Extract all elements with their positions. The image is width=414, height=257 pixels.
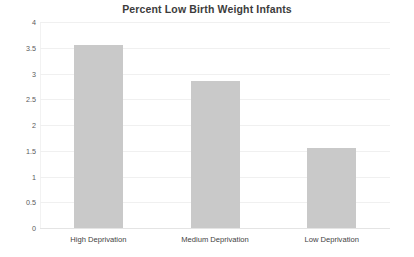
y-axis-tick-label: 2 — [0, 121, 36, 130]
y-axis-tick-label: 2.5 — [0, 95, 36, 104]
bar — [191, 81, 240, 228]
plot-area — [40, 22, 390, 228]
x-axis-category-label: Low Deprivation — [304, 235, 358, 244]
y-axis-tick-label: 0 — [0, 224, 36, 233]
bar — [74, 45, 123, 228]
y-axis-tick-label: 4 — [0, 18, 36, 27]
bar-chart-figure: Percent Low Birth Weight Infants 43.532.… — [0, 0, 414, 257]
x-axis-category-label: Medium Deprivation — [181, 235, 249, 244]
bar — [307, 148, 356, 228]
x-axis-category-labels: High DeprivationMedium DeprivationLow De… — [40, 232, 390, 252]
y-axis-tick-labels: 43.532.521.510.50 — [0, 22, 36, 228]
y-axis-tick-label: 3.5 — [0, 43, 36, 52]
chart-title: Percent Low Birth Weight Infants — [0, 3, 414, 15]
y-axis-tick-label: 0.5 — [0, 198, 36, 207]
gridline — [40, 228, 390, 229]
bars-group — [40, 22, 390, 228]
y-axis-tick-label: 1.5 — [0, 146, 36, 155]
y-axis-tick-label: 1 — [0, 172, 36, 181]
x-axis-category-label: High Deprivation — [70, 235, 126, 244]
y-axis-tick-label: 3 — [0, 69, 36, 78]
